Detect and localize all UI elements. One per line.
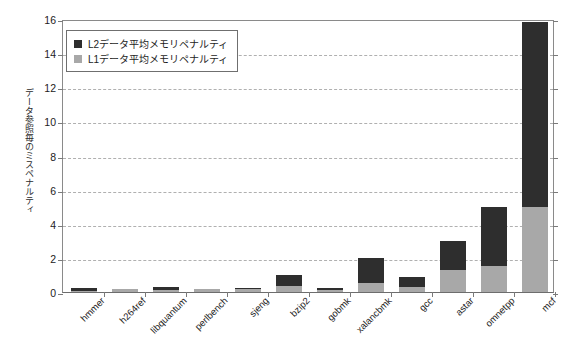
bar-segment-l1 xyxy=(440,270,466,292)
y-tick-label: 8 xyxy=(34,151,56,163)
bar-perlbench xyxy=(194,289,220,292)
bar-segment-l2 xyxy=(276,275,302,286)
bar-segment-l1 xyxy=(522,207,548,292)
bar-segment-l1 xyxy=(276,286,302,292)
bar-segment-l1 xyxy=(194,289,220,292)
y-tick-label: 0 xyxy=(34,287,56,299)
bar-gcc xyxy=(399,277,425,292)
bar-segment-l1 xyxy=(153,290,179,292)
y-tick-label: 16 xyxy=(34,14,56,26)
x-axis-tick-labels: hmmerh264reflibquantumperlbenchsjengbzip… xyxy=(62,295,554,364)
y-tick-mark xyxy=(553,226,558,227)
bar-segment-l1 xyxy=(481,266,507,292)
bar-mcf xyxy=(522,22,548,292)
bar-sjeng xyxy=(235,288,261,292)
x-tick-label-mcf: mcf xyxy=(539,295,558,314)
bar-segment-l2 xyxy=(440,241,466,270)
bar-libquantum xyxy=(153,287,179,292)
y-tick-mark xyxy=(553,21,558,22)
x-tick-label-gobmk: gobmk xyxy=(324,295,352,323)
bar-omnetpp xyxy=(481,207,507,292)
bar-segment-l1 xyxy=(235,289,261,292)
legend-item: L1データ平均メモリペナルティ xyxy=(74,51,228,66)
legend-label-l1: L1データ平均メモリペナルティ xyxy=(88,51,228,66)
bar-segment-l1 xyxy=(71,291,97,292)
y-tick-mark xyxy=(553,123,558,124)
y-tick-label: 2 xyxy=(34,253,56,265)
x-tick-label-h264ref: h264ref xyxy=(117,295,148,326)
y-tick-mark xyxy=(553,158,558,159)
stacked-bar-chart: データ参照毎のミスペナルティ 0246810121416 hmmerh264re… xyxy=(0,0,573,364)
bar-gobmk xyxy=(317,288,343,292)
x-tick-label-libquantum: libquantum xyxy=(148,295,189,336)
bar-segment-l2 xyxy=(358,258,384,284)
x-tick-label-gcc: gcc xyxy=(416,295,434,313)
x-tick-label-sjeng: sjeng xyxy=(246,295,270,319)
y-tick-mark xyxy=(553,55,558,56)
bar-xalancbmk xyxy=(358,258,384,292)
x-tick-mark xyxy=(555,292,556,297)
y-tick-mark xyxy=(553,89,558,90)
bar-bzip2 xyxy=(276,275,302,292)
y-tick-mark xyxy=(553,260,558,261)
x-tick-label-hmmer: hmmer xyxy=(78,295,107,324)
bar-h264ref xyxy=(112,289,138,292)
bar-segment-l2 xyxy=(399,277,425,287)
legend-label-l2: L2データ平均メモリペナルティ xyxy=(88,36,228,51)
legend-swatch-l1 xyxy=(74,55,82,63)
x-tick-label-perlbench: perlbench xyxy=(192,295,229,332)
bar-segment-l1 xyxy=(358,283,384,292)
y-axis-tick-labels: 0246810121416 xyxy=(30,0,56,364)
bar-segment-l2 xyxy=(481,207,507,267)
bar-hmmer xyxy=(71,288,97,292)
legend-swatch-l2 xyxy=(74,40,82,48)
y-tick-label: 12 xyxy=(34,82,56,94)
y-tick-label: 4 xyxy=(34,219,56,231)
y-tick-mark xyxy=(553,192,558,193)
x-tick-label-astar: astar xyxy=(453,295,476,318)
bar-segment-l2 xyxy=(522,22,548,206)
y-tick-label: 10 xyxy=(34,116,56,128)
x-tick-label-xalancbmk: xalancbmk xyxy=(353,295,393,335)
bar-segment-l1 xyxy=(112,289,138,292)
y-tick-label: 14 xyxy=(34,48,56,60)
bar-segment-l1 xyxy=(399,287,425,292)
legend-item: L2データ平均メモリペナルティ xyxy=(74,36,228,51)
bar-segment-l1 xyxy=(317,290,343,292)
x-tick-label-bzip2: bzip2 xyxy=(287,295,311,319)
legend: L2データ平均メモリペナルティ L1データ平均メモリペナルティ xyxy=(66,30,238,72)
y-tick-label: 6 xyxy=(34,185,56,197)
x-tick-label-omnetpp: omnetpp xyxy=(482,295,516,329)
bar-astar xyxy=(440,241,466,292)
